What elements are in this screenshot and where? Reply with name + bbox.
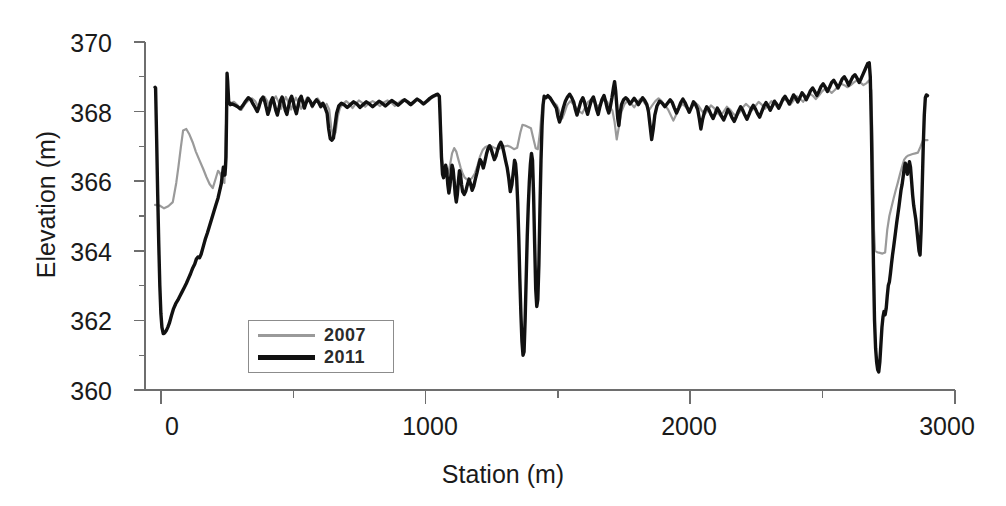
legend-label-2007: 2007	[324, 325, 366, 346]
x-axis-title: Station (m)	[0, 460, 1006, 489]
y-axis-title: Elevation (m)	[32, 55, 61, 355]
legend-line-swatch-2007-icon	[258, 334, 315, 337]
y-tick-label-360: 360	[22, 377, 112, 406]
legend-line-swatch-2011-icon	[258, 355, 315, 360]
legend-label-2011: 2011	[324, 347, 365, 368]
legend-entry-2011: 2011	[258, 347, 365, 367]
x-tick-label-0: 0	[112, 412, 232, 441]
x-tick-label-1000: 1000	[370, 412, 490, 441]
x-tick-label-2000: 2000	[629, 412, 749, 441]
x-tick-label-3000: 3000	[887, 412, 1006, 441]
legend-entry-2007: 2007	[258, 325, 366, 345]
chart-container: 370 368 366 364 362 360 0 1000 2000 3000…	[0, 0, 1006, 506]
legend: 2007 2011	[248, 320, 394, 373]
